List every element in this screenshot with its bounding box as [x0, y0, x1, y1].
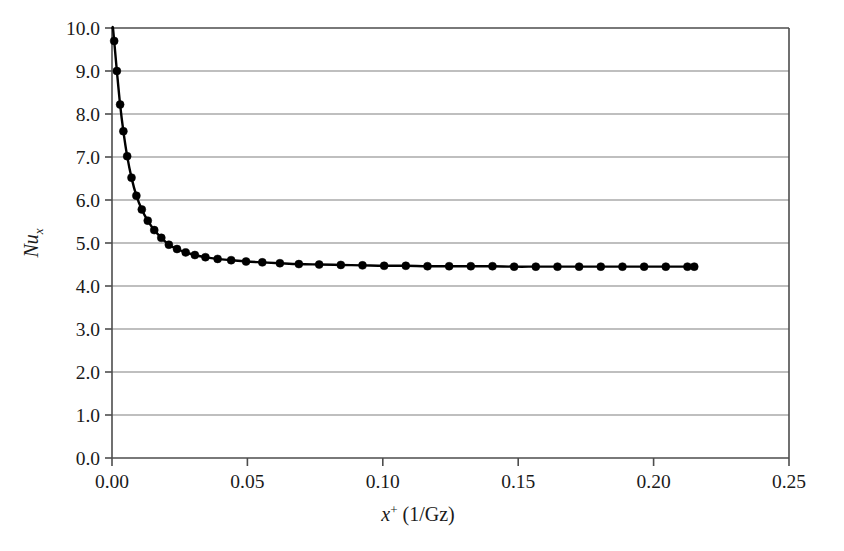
data-point-marker: [662, 263, 670, 271]
data-point-marker: [242, 257, 250, 265]
x-axis-title-rest: (1/Gz): [398, 503, 455, 526]
y-tick-label: 10.0: [66, 18, 100, 39]
data-point-marker: [132, 192, 140, 200]
data-point-marker: [337, 261, 345, 269]
data-point-marker: [423, 262, 431, 270]
data-point-marker: [618, 263, 626, 271]
x-tick-label: 0.25: [772, 471, 806, 492]
x-tick-label: 0.10: [366, 471, 400, 492]
chart-background: [0, 0, 844, 551]
data-point-marker: [157, 234, 165, 242]
data-point-marker: [258, 258, 266, 266]
data-point-marker: [173, 245, 181, 253]
data-point-marker: [191, 251, 199, 259]
x-tick-label: 0.05: [230, 471, 264, 492]
y-tick-label: 5.0: [76, 233, 100, 254]
y-tick-label: 3.0: [76, 319, 100, 340]
data-point-marker: [276, 259, 284, 267]
y-tick-label: 6.0: [76, 190, 100, 211]
data-point-marker: [597, 263, 605, 271]
data-point-marker: [553, 263, 561, 271]
x-axis-title-symbol: x: [380, 503, 390, 525]
data-point-marker: [315, 261, 323, 269]
y-tick-label: 7.0: [76, 147, 100, 168]
data-point-marker: [488, 262, 496, 270]
y-tick-label: 4.0: [76, 276, 100, 297]
data-point-marker: [116, 101, 124, 109]
y-tick-label: 9.0: [76, 61, 100, 82]
y-tick-label: 8.0: [76, 104, 100, 125]
data-point-marker: [575, 263, 583, 271]
data-point-marker: [123, 152, 131, 160]
data-point-marker: [128, 174, 136, 182]
nusselt-thermal-entry-chart: 0.01.02.03.04.05.06.07.08.09.010.0 0.000…: [0, 0, 844, 551]
data-point-marker: [402, 262, 410, 270]
x-tick-label: 0.20: [637, 471, 671, 492]
data-point-marker: [510, 263, 518, 271]
data-point-marker: [227, 256, 235, 264]
y-tick-label: 2.0: [76, 362, 100, 383]
data-point-marker: [119, 127, 127, 135]
y-tick-label: 1.0: [76, 405, 100, 426]
data-point-marker: [358, 261, 366, 269]
y-axis-title-symbol: Nu: [20, 234, 42, 258]
data-point-marker: [165, 241, 173, 249]
data-point-marker: [445, 262, 453, 270]
data-point-marker: [532, 263, 540, 271]
data-point-marker: [110, 37, 118, 45]
data-point-marker: [138, 205, 146, 213]
y-axis-title-subscript: x: [31, 228, 46, 235]
data-point-marker: [295, 260, 303, 268]
data-point-marker: [640, 263, 648, 271]
data-point-marker: [144, 217, 152, 225]
y-tick-label: 0.0: [76, 448, 100, 469]
data-point-marker: [150, 226, 158, 234]
data-point-marker: [380, 262, 388, 270]
data-point-marker: [467, 262, 475, 270]
figure-container: 0.01.02.03.04.05.06.07.08.09.010.0 0.000…: [0, 0, 844, 551]
data-point-marker: [214, 255, 222, 263]
x-tick-label: 0.15: [501, 471, 535, 492]
data-point-marker: [182, 248, 190, 256]
data-point-marker: [201, 253, 209, 261]
x-tick-label: 0.00: [95, 471, 129, 492]
data-point-marker: [113, 67, 121, 75]
data-point-marker: [690, 263, 698, 271]
x-axis-title-superscript: +: [390, 502, 397, 517]
